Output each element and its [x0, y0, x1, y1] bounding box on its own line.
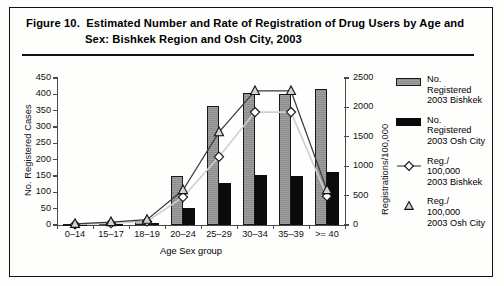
legend-label-line: Registered	[427, 85, 492, 96]
legend-label: No.Registered2003 Bishkek	[427, 74, 492, 106]
y-axis-left-tick-label: 300	[21, 121, 51, 131]
y-axis-right-tick	[344, 77, 349, 78]
legend-label: Reg./100,0002003 Bishkek	[427, 156, 492, 188]
y-axis-left-line	[57, 77, 58, 226]
y-axis-right-tick-label: 0	[353, 219, 358, 229]
legend-label-line: Registered	[427, 125, 492, 136]
y-axis-left-tick-label: 200	[21, 154, 51, 164]
x-axis-tick-label: 20–24	[165, 229, 201, 239]
y-axis-left-title: No. Registered Cases	[22, 104, 33, 196]
y-axis-right-tick	[344, 107, 349, 108]
x-axis-tick-label: 30–34	[237, 229, 273, 239]
legend-label-line: 2003 Bishkek	[427, 95, 492, 106]
legend-label-line: No.	[427, 115, 492, 126]
bar-osh-6	[291, 176, 303, 225]
bar-bishkek-3	[171, 176, 183, 225]
x-axis-tick-label: 35–39	[273, 229, 309, 239]
legend-label: No.Registered2003 Osh City	[427, 115, 492, 147]
legend-swatch	[396, 78, 421, 86]
x-axis-title: Age Sex group	[160, 245, 222, 256]
x-axis-tick-label: 18–19	[129, 229, 165, 239]
y-axis-right-tick-label: 2500	[353, 72, 373, 82]
y-axis-left-tick-label: 100	[21, 186, 51, 196]
y-axis-left-tick-label: 450	[21, 72, 51, 82]
y-axis-left-tick	[53, 143, 58, 144]
legend-item-0: No.Registered2003 Bishkek	[396, 74, 492, 106]
legend-label-line: No.	[427, 74, 492, 85]
bar-osh-3	[183, 208, 195, 225]
bar-osh-1	[111, 224, 123, 226]
legend-label-line: 100,000	[427, 166, 492, 177]
legend-label-line: Reg./	[427, 156, 492, 167]
y-axis-left-tick	[53, 94, 58, 95]
grey-bar-swatch	[396, 76, 422, 87]
figure-title-line-1: Figure 10. Estimated Number and Rate of …	[26, 16, 466, 32]
x-axis-tick-label: 25–29	[201, 229, 237, 239]
legend-item-2: Reg./100,0002003 Bishkek	[396, 156, 492, 188]
legend-label-line: 2003 Bishkek	[427, 177, 492, 188]
black-bar-swatch	[396, 117, 422, 128]
legend-label: Reg./100,0002003 Osh City	[427, 196, 492, 228]
figure-title: Figure 10. Estimated Number and Rate of …	[26, 16, 466, 47]
bar-osh-2	[147, 223, 159, 225]
bar-osh-5	[255, 175, 267, 225]
triangle-line-marker	[396, 198, 422, 209]
x-axis-tick	[345, 225, 346, 229]
bar-bishkek-1	[99, 223, 111, 225]
figure-container: Figure 10. Estimated Number and Rate of …	[0, 0, 504, 286]
y-axis-right-tick-label: 1500	[353, 131, 373, 141]
y-axis-left-tick	[53, 192, 58, 193]
x-axis-tick-label: 0–14	[57, 229, 93, 239]
y-axis-right-tick-label: 1000	[353, 160, 373, 170]
y-axis-left-tick	[53, 208, 58, 209]
bar-osh-7	[327, 172, 339, 225]
y-axis-right-tick-label: 2000	[353, 101, 373, 111]
diamond-line-marker	[396, 158, 422, 169]
y-axis-left-tick-label: 400	[21, 88, 51, 98]
bar-bishkek-7	[315, 89, 327, 225]
x-axis-tick-label: 15–17	[93, 229, 129, 239]
title-divider	[22, 54, 474, 56]
x-axis-tick-label: >= 40	[309, 229, 345, 239]
legend-swatch	[396, 118, 421, 126]
chart-legend: No.Registered2003 BishkekNo.Registered20…	[396, 74, 492, 237]
y-axis-right-tick	[344, 195, 349, 196]
y-axis-left-tick-label: 50	[21, 203, 51, 213]
y-axis-left-tick	[53, 159, 58, 160]
legend-label-line: 2003 Osh City	[427, 218, 492, 229]
bar-bishkek-6	[279, 94, 291, 225]
bar-osh-0	[75, 224, 87, 226]
y-axis-right-line	[345, 77, 346, 226]
y-axis-left-tick-label: 250	[21, 137, 51, 147]
bar-osh-4	[219, 183, 231, 225]
y-axis-right-tick	[344, 136, 349, 137]
y-axis-left-tick	[53, 77, 58, 78]
y-axis-left-tick	[53, 175, 58, 176]
y-axis-left-tick	[53, 110, 58, 111]
y-axis-left-tick-label: 150	[21, 170, 51, 180]
legend-label-line: 100,000	[427, 207, 492, 218]
y-axis-left-tick	[53, 126, 58, 127]
figure-title-line-2: Sex: Bishkek Region and Osh City, 2003	[85, 32, 466, 48]
y-axis-right-tick-label: 500	[353, 190, 368, 200]
y-axis-left-tick-label: 350	[21, 105, 51, 115]
legend-item-3: Reg./100,0002003 Osh City	[396, 196, 492, 228]
y-axis-right-tick	[344, 166, 349, 167]
bar-bishkek-5	[243, 93, 255, 225]
y-axis-left-tick-label: 0	[21, 219, 51, 229]
bar-bishkek-2	[135, 221, 147, 225]
bar-bishkek-0	[63, 224, 75, 226]
y-axis-right-title: Registrations/100,000	[379, 124, 390, 215]
legend-item-1: No.Registered2003 Osh City	[396, 115, 492, 147]
legend-label-line: Reg./	[427, 196, 492, 207]
legend-label-line: 2003 Osh City	[427, 136, 492, 147]
bar-bishkek-4	[207, 106, 219, 225]
